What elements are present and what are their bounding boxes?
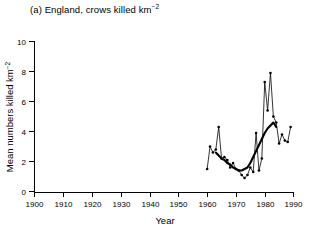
data-point-marker (209, 145, 212, 148)
figure-panel: (a) England, crows killed km−2 10 8 6 4 … (0, 0, 314, 230)
data-point-marker (246, 174, 249, 177)
data-point-marker (261, 157, 264, 160)
raw-data-line (207, 73, 290, 178)
x-axis-tick-labels: 1900 1910 1920 1930 1940 1950 1960 1970 … (26, 200, 303, 209)
chart-plot: 10 8 6 4 2 0 1900 1910 1920 1930 1940 (0, 0, 314, 230)
y-tick-label-8: 8 (22, 68, 27, 77)
y-axis-tick-labels: 10 8 6 4 2 0 (17, 38, 26, 197)
x-tick-label-1910: 1910 (55, 200, 73, 209)
data-point-marker (289, 126, 292, 129)
y-tick-label-10: 10 (17, 38, 26, 47)
x-tick-label-1970: 1970 (228, 200, 246, 209)
data-point-marker (215, 148, 218, 151)
x-tick-label-1920: 1920 (84, 200, 102, 209)
x-tick-label-1930: 1930 (113, 200, 131, 209)
data-point-marker (281, 133, 284, 136)
data-point-marker (249, 166, 252, 169)
data-point-marker (243, 177, 246, 180)
x-tick-label-1940: 1940 (142, 200, 160, 209)
svg-text:Mean numbers killed km−2: Mean numbers killed km−2 (4, 61, 15, 172)
data-point-marker (286, 141, 289, 144)
x-tick-label-1950: 1950 (170, 200, 188, 209)
data-point-marker (275, 121, 278, 124)
data-point-marker (252, 171, 255, 174)
data-point-marker (263, 81, 266, 84)
data-point-marker (266, 109, 269, 112)
y-tick-label-4: 4 (22, 128, 27, 137)
data-point-marker (212, 151, 215, 154)
smoothed-trend-line (216, 123, 276, 171)
data-point-marker (255, 132, 258, 135)
y-axis-title: Mean numbers killed km−2 (4, 61, 15, 172)
y-tick-label-6: 6 (22, 98, 27, 107)
data-series-layer (206, 72, 292, 180)
data-point-marker (258, 169, 261, 172)
data-point-marker (278, 142, 281, 145)
y-axis-title-exponent: −2 (4, 61, 11, 69)
data-point-marker (217, 126, 220, 129)
data-point-marker (232, 162, 235, 165)
x-tick-label-1990: 1990 (285, 200, 303, 209)
y-axis-ticks (29, 42, 34, 192)
x-tick-label-1900: 1900 (26, 200, 44, 209)
data-point-marker (223, 156, 226, 159)
x-tick-label-1960: 1960 (199, 200, 217, 209)
x-axis-title: Year (155, 215, 174, 226)
data-point-marker (269, 72, 272, 75)
y-tick-label-2: 2 (22, 158, 27, 167)
x-tick-label-1980: 1980 (257, 200, 275, 209)
y-axis-title-text: Mean numbers killed km (4, 69, 15, 172)
data-point-marker (284, 139, 287, 142)
data-point-marker (240, 174, 243, 177)
x-axis-ticks (35, 192, 294, 197)
y-tick-label-0: 0 (22, 188, 27, 197)
data-point-marker (272, 115, 275, 118)
data-point-marker (206, 168, 209, 171)
